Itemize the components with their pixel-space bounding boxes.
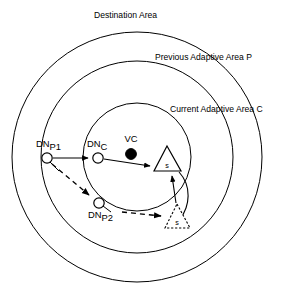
flow-dnp2-to-sink-previous [122,212,161,216]
previous-adaptive-area-label: Previous Adaptive Area P [155,52,252,62]
sink-previous-label: s [175,218,179,227]
node-dn-p1[interactable] [42,153,52,163]
node-dn-p1-tick [50,162,59,171]
node-dn-p2-label: DNP2 [88,209,113,223]
vc-node[interactable] [126,149,137,160]
vc-label: VC [124,133,137,144]
node-dn-c[interactable] [93,153,103,163]
diagram-canvas: Destination Area Previous Adaptive Area … [0,0,297,283]
flow-sink-previous-to-sink-current [172,176,176,203]
destination-area-label: Destination Area [94,10,157,20]
node-dn-p1-label: DNP1 [36,138,61,152]
flow-dnp1-to-dnp2 [52,164,89,195]
current-adaptive-area-label: Current Adaptive Area C [170,104,263,114]
diagram-svg: Destination Area Previous Adaptive Area … [0,0,297,283]
flow-dnc-to-sink-current [104,159,150,166]
node-dn-c-label: DNC [87,138,108,152]
sink-current-label: s [165,161,169,170]
previous-adaptive-area-ring [41,61,233,253]
node-dn-p2[interactable] [94,198,104,208]
